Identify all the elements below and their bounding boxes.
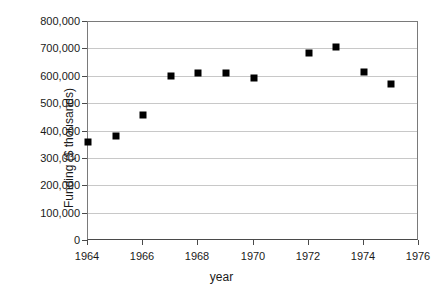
y-axis-tick <box>82 158 87 159</box>
y-axis-tick <box>82 21 87 22</box>
y-axis-tick <box>82 185 87 186</box>
x-axis-tick-label: 1966 <box>130 250 154 262</box>
data-point-marker <box>305 49 312 56</box>
gridline <box>88 48 417 49</box>
data-point-marker <box>250 74 257 81</box>
data-point-marker <box>167 73 174 80</box>
x-axis-tick-label: 1964 <box>75 250 99 262</box>
data-point-marker <box>112 132 119 139</box>
data-point-marker <box>195 69 202 76</box>
data-point-marker <box>140 111 147 118</box>
data-point-marker <box>360 69 367 76</box>
y-axis-tick <box>82 76 87 77</box>
x-axis-tick <box>142 240 143 245</box>
gridline <box>88 185 417 186</box>
y-axis-tick-label: 300,000 <box>2 152 80 164</box>
chart-figure: Funding ($ thousands) 0100,000200,000300… <box>0 0 443 295</box>
y-axis-tick-label: 200,000 <box>2 179 80 191</box>
y-axis-tick-label: 800,000 <box>2 15 80 27</box>
x-axis-tick <box>363 240 364 245</box>
x-axis-tick <box>418 240 419 245</box>
x-axis-tick-label: 1972 <box>296 250 320 262</box>
y-axis-tick <box>82 213 87 214</box>
x-axis-tick-label: 1976 <box>406 250 430 262</box>
x-axis-title: year <box>0 270 443 284</box>
y-axis-tick <box>82 48 87 49</box>
x-axis-tick <box>308 240 309 245</box>
y-axis-tick-label: 500,000 <box>2 97 80 109</box>
y-axis-tick-label: 100,000 <box>2 207 80 219</box>
data-point-marker <box>388 81 395 88</box>
x-axis-tick-label: 1974 <box>351 250 375 262</box>
x-axis-tick <box>197 240 198 245</box>
x-axis-tick-label: 1970 <box>241 250 265 262</box>
data-point-marker <box>333 44 340 51</box>
y-axis-tick <box>82 131 87 132</box>
x-axis-tick <box>87 240 88 245</box>
y-axis-tick <box>82 103 87 104</box>
y-axis-tick-label: 600,000 <box>2 70 80 82</box>
y-axis-tick-label: 700,000 <box>2 42 80 54</box>
gridline <box>88 158 417 159</box>
y-axis-tick-label: 400,000 <box>2 125 80 137</box>
gridline <box>88 103 417 104</box>
gridline <box>88 131 417 132</box>
x-axis-tick-label: 1968 <box>185 250 209 262</box>
gridline <box>88 213 417 214</box>
y-axis-tick-label: 0 <box>2 234 80 246</box>
data-point-marker <box>222 70 229 77</box>
data-point-marker <box>85 138 92 145</box>
y-axis-tick-labels: 0100,000200,000300,000400,000500,000600,… <box>0 0 80 295</box>
plot-area <box>87 21 418 240</box>
x-axis-tick <box>253 240 254 245</box>
